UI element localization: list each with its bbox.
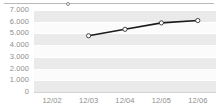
y-axis-tick-labels: 7.0006.0005.0004.0003.0002.0001.0000	[0, 10, 32, 92]
legend-strip	[4, 2, 214, 5]
y-axis-tick-label: 2.000	[0, 65, 29, 73]
x-axis-line	[34, 92, 216, 93]
line-chart: 7.0006.0005.0004.0003.0002.0001.0000 12/…	[0, 0, 218, 110]
y-axis-tick-label: 3.000	[0, 53, 29, 61]
series-line-group	[34, 10, 216, 92]
x-axis-tick-labels: 12/0212/0312/0412/0512/06	[34, 96, 216, 108]
y-axis-tick-label: 0	[0, 88, 29, 96]
legend-series-line	[4, 3, 214, 4]
y-axis-tick-label: 4.000	[0, 41, 29, 49]
x-axis-tick-label: 12/06	[178, 96, 218, 106]
x-axis-tick-label: 12/05	[141, 96, 181, 106]
x-axis-tick-label: 12/03	[69, 96, 109, 106]
x-axis-tick-label: 12/02	[32, 96, 72, 106]
data-point-marker	[196, 18, 200, 22]
y-axis-tick-label: 1.000	[0, 76, 29, 84]
x-axis-tick-label: 12/04	[105, 96, 145, 106]
plot-area	[34, 10, 216, 92]
series-line	[89, 21, 198, 36]
y-axis-tick-label: 6.000	[0, 18, 29, 26]
legend-series-marker-icon	[66, 2, 70, 6]
y-axis-tick-label: 5.000	[0, 29, 29, 37]
data-point-marker	[123, 27, 127, 31]
data-point-marker	[87, 34, 91, 38]
data-point-marker	[159, 21, 163, 25]
y-axis-tick-label: 7.000	[0, 6, 29, 14]
